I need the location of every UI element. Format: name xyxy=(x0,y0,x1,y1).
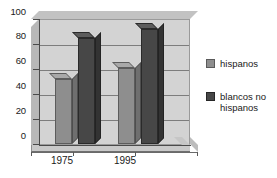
bar-face xyxy=(78,38,95,144)
legend-swatch-icon-blancos-no-hispanos xyxy=(206,92,215,101)
legend-label-hispanos: hispanos xyxy=(220,58,258,69)
bar-hispanos-1995 xyxy=(118,68,135,144)
x-axis-baseline xyxy=(31,152,198,153)
bar-blancos-no-hispanos-1975 xyxy=(78,38,95,144)
legend-item-hispanos: hispanos xyxy=(206,58,277,69)
y-axis-tick-0 xyxy=(33,144,39,145)
y-axis-tick-100 xyxy=(33,19,39,20)
floor-depth-side xyxy=(190,137,198,152)
y-axis-tick-label-80: 80 xyxy=(0,30,26,41)
panel-depth-top xyxy=(31,11,198,19)
plot-area xyxy=(31,11,198,147)
y-axis-tick-60 xyxy=(33,69,39,70)
floor-front xyxy=(31,145,190,152)
y-axis-tick-40 xyxy=(33,94,39,95)
legend-label-blancos-no-hispanos: blancos no hispanos xyxy=(220,91,266,113)
bar-blancos-no-hispanos-1995 xyxy=(141,29,158,144)
bar-side xyxy=(158,23,164,144)
y-axis-tick-80 xyxy=(33,44,39,45)
bar-face xyxy=(55,79,72,144)
legend: hispanos blancos no hispanos xyxy=(206,58,277,135)
legend-item-blancos-no-hispanos: blancos no hispanos xyxy=(206,91,277,113)
y-axis-line xyxy=(39,19,40,146)
y-axis-tick-label-0: 0 xyxy=(0,130,26,141)
y-axis-tick-label-60: 60 xyxy=(0,55,26,66)
bar-face xyxy=(141,29,158,144)
y-axis-tick-20 xyxy=(33,119,39,120)
bars-layer xyxy=(39,19,190,144)
x-axis-label-1995: 1995 xyxy=(103,155,147,166)
y-axis-tick-label-20: 20 xyxy=(0,105,26,116)
bar-hispanos-1975 xyxy=(55,79,72,144)
bar-side xyxy=(95,32,101,144)
legend-swatch-icon-hispanos xyxy=(206,59,215,68)
x-axis-label-1975: 1975 xyxy=(40,155,84,166)
y-axis-tick-label-40: 40 xyxy=(0,80,26,91)
y-axis-tick-label-100: 100 xyxy=(0,6,26,17)
bar-face xyxy=(118,68,135,144)
x-axis-line xyxy=(39,145,191,146)
x-axis-tick-end xyxy=(197,152,198,156)
panel-depth-left xyxy=(31,19,39,153)
bar-chart: 100 80 60 40 20 0 xyxy=(0,0,277,178)
x-axis-tick-start xyxy=(31,152,32,156)
